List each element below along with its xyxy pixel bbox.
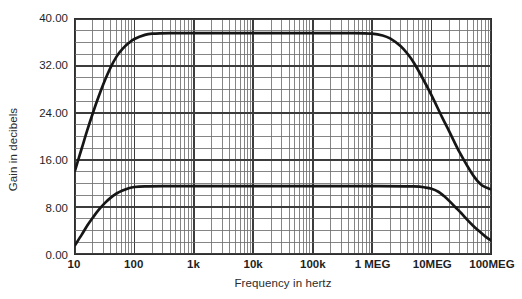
gain-frequency-chart: Gain in decibels 0.008.0016.0024.0032.00…	[0, 0, 522, 299]
x-tick-label: 100	[124, 258, 143, 270]
y-tick-label: 8.00	[46, 202, 68, 214]
y-axis-title: Gain in decibels	[0, 0, 26, 299]
x-tick-label: 1 MEG	[355, 258, 391, 270]
x-tick-label: 10	[68, 258, 81, 270]
y-tick-label: 0.00	[46, 249, 68, 261]
y-tick-label: 24.00	[39, 107, 68, 119]
x-tick-label: 1k	[187, 258, 200, 270]
x-tick-label: 100MEG	[469, 258, 514, 270]
y-tick-label: 16.00	[39, 154, 68, 166]
y-tick-label: 40.00	[39, 12, 68, 24]
upper-gain-curve	[75, 33, 491, 189]
curves-layer	[75, 19, 491, 254]
x-tick-label: 10MEG	[413, 258, 452, 270]
x-axis-title: Frequency in hertz	[74, 277, 492, 289]
plot-area	[74, 18, 492, 255]
y-tick-label: 32.00	[39, 59, 68, 71]
x-tick-label: 10k	[244, 258, 263, 270]
x-tick-label: 100k	[300, 258, 326, 270]
lower-gain-curve	[75, 186, 491, 245]
